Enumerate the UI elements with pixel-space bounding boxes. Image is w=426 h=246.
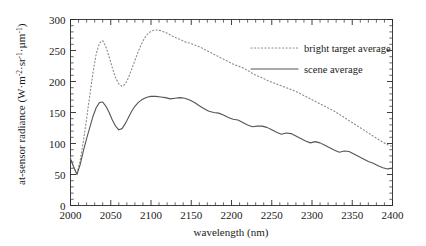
- chart-figure: at-sensor radiance (W·m-2·sr-1·µm-1) wav…: [0, 0, 426, 246]
- svg-text:at-sensor radiance (W·m-2·sr-1: at-sensor radiance (W·m-2·sr-1·µm-1): [15, 23, 29, 185]
- y-tick-label: 0: [60, 200, 66, 212]
- x-axis-title: wavelength (nm): [194, 226, 269, 239]
- x-tick-label: 2400: [382, 209, 405, 221]
- series-2-solid: [71, 96, 393, 174]
- legend-layer: bright target averagescene average: [251, 43, 391, 75]
- y-axis-title: at-sensor radiance (W·m-2·sr-1·µm-1): [15, 23, 29, 185]
- legend-label-2: scene average: [304, 64, 363, 75]
- x-tick-label: 2300: [301, 209, 324, 221]
- y-axis-title-mid1: ·sr: [15, 58, 27, 70]
- y-tick-label: 50: [55, 169, 67, 181]
- y-tick-label: 150: [49, 107, 66, 119]
- legend-label-1: bright target average: [304, 43, 391, 54]
- x-tick-label: 2250: [261, 209, 284, 221]
- y-tick-label: 200: [49, 76, 66, 88]
- radiance-spectrum-chart: at-sensor radiance (W·m-2·sr-1·µm-1) wav…: [0, 0, 426, 246]
- x-tick-label: 2350: [341, 209, 364, 221]
- y-tick-label: 300: [49, 14, 66, 26]
- x-tick-label: 2050: [100, 209, 123, 221]
- y-axis-title-tail: ): [15, 23, 28, 27]
- x-tick-label: 2150: [180, 209, 203, 221]
- x-tick-label: 2200: [221, 209, 244, 221]
- y-axis-title-mid2: ·µm: [15, 33, 27, 52]
- y-tick-label: 250: [49, 45, 66, 57]
- x-tick-label: 2100: [140, 209, 163, 221]
- y-axis-title-base: at-sensor radiance (W·m: [15, 76, 28, 185]
- y-tick-label: 100: [49, 138, 66, 150]
